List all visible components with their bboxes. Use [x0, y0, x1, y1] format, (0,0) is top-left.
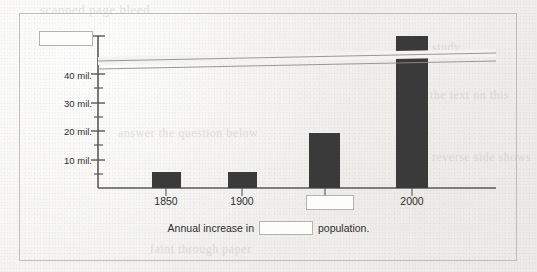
- y-tick-label-30: 30 mil.: [64, 98, 92, 109]
- y-tick-label-40: 40 mil.: [64, 70, 92, 81]
- x-tick-label-1900: 1900: [230, 195, 253, 207]
- x-tick-label-1850: 1850: [154, 195, 177, 207]
- figure-caption: Annual increase inpopulation.: [0, 221, 537, 235]
- caption-text-after: population.: [318, 222, 369, 234]
- caption-text-before: Annual increase in: [168, 222, 254, 234]
- chart-plot-area[interactable]: [98, 22, 496, 188]
- y-tick-label-10: 10 mil.: [64, 155, 92, 166]
- x-tick-label-2000: 2000: [400, 195, 423, 207]
- x-axis-labels: 1850 1900 2000: [0, 193, 537, 211]
- y-tick-label-20: 20 mil.: [64, 126, 92, 137]
- blank-box-caption-word[interactable]: [259, 221, 313, 235]
- blank-box-y-axis-top-label[interactable]: [39, 31, 93, 46]
